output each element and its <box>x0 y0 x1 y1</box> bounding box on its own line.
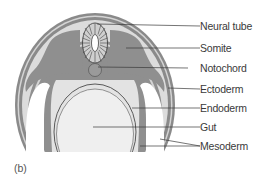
gut <box>57 89 134 179</box>
label-gut: Gut <box>200 121 216 133</box>
label-notochord: Notochord <box>200 62 247 74</box>
label-ectoderm: Ectoderm <box>200 83 243 95</box>
panel-label: (b) <box>14 162 27 174</box>
notochord <box>89 64 102 77</box>
neural-tube <box>83 23 108 63</box>
neural-tube-lumen <box>92 35 99 52</box>
label-mesoderm: Mesoderm <box>200 140 248 152</box>
label-neural-tube: Neural tube <box>200 20 252 32</box>
label-endoderm: Endoderm <box>200 102 247 114</box>
label-somite: Somite <box>200 42 231 54</box>
